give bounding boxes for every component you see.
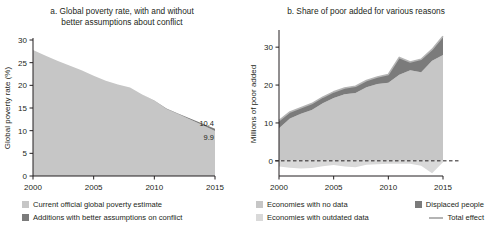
y-axis-tick-label: 10 [18, 127, 27, 136]
legend-label: Displaced people [426, 200, 484, 209]
legend-label: Additions with better assumptions on con… [33, 213, 182, 222]
y-axis-tick-label: 0 [269, 157, 274, 166]
panel-b-title: b. Share of poor added for various reaso… [244, 0, 488, 24]
legend-swatch-icon [22, 201, 29, 208]
x-axis-tick-label: 2010 [145, 183, 163, 192]
panel-b-title-line1: b. Share of poor added for various reaso… [244, 6, 488, 17]
data-label: 9.9 [204, 133, 214, 142]
area-series [279, 161, 443, 174]
legend-item-outdated-data[interactable]: Economies with outdated data [256, 213, 369, 222]
panel-b-svg: 01020302000200520102015Millions of poor … [244, 24, 488, 199]
panel-b-legend: Economies with no data Displaced people … [244, 198, 488, 224]
legend-item-displaced-people[interactable]: Displaced people [415, 200, 488, 209]
y-axis-tick-label: 10 [264, 119, 273, 128]
y-axis-tick-label: 30 [18, 36, 27, 45]
panel-a-title: a. Global poverty rate, with and without… [0, 0, 244, 24]
legend-swatch-icon [22, 214, 29, 221]
legend-swatch-icon [415, 201, 422, 208]
x-axis-tick-label: 2000 [24, 183, 42, 192]
y-axis-title: Global poverty rate (%) [3, 67, 12, 150]
panel-a-svg: 0510152025302000200520102015Global pover… [0, 24, 244, 199]
legend-line-icon [429, 217, 443, 219]
y-axis-tick-label: 30 [264, 43, 273, 52]
legend-row: Economies with outdated data Total effec… [244, 211, 488, 224]
x-axis-tick-label: 2015 [434, 183, 452, 192]
panel-a-legend: Current official global poverty estimate… [0, 198, 244, 224]
legend-label: Economies with no data [267, 200, 348, 209]
legend-row: Additions with better assumptions on con… [0, 211, 244, 224]
legend-label: Current official global poverty estimate [33, 200, 162, 209]
y-axis-tick-label: 15 [18, 104, 27, 113]
y-axis-tick-label: 20 [18, 81, 27, 90]
legend-item-no-data[interactable]: Economies with no data [256, 200, 348, 209]
x-axis-tick-label: 2000 [270, 183, 288, 192]
legend-item-total-effect[interactable]: Total effect [429, 213, 488, 222]
x-axis-tick-label: 2005 [325, 183, 343, 192]
area-series [33, 50, 215, 176]
legend-row: Economies with no data Displaced people [244, 198, 488, 211]
panel-a: a. Global poverty rate, with and without… [0, 0, 244, 239]
panel-a-plot: 0510152025302000200520102015Global pover… [0, 24, 244, 199]
legend-label: Total effect [447, 213, 484, 222]
x-axis-tick-label: 2015 [206, 183, 224, 192]
legend-swatch-icon [256, 201, 263, 208]
legend-item-conflict-additions[interactable]: Additions with better assumptions on con… [22, 213, 182, 222]
x-axis-tick-label: 2005 [85, 183, 103, 192]
legend-row: Current official global poverty estimate [0, 198, 244, 211]
figure-container: a. Global poverty rate, with and without… [0, 0, 488, 239]
panel-b-plot: 01020302000200520102015Millions of poor … [244, 24, 488, 199]
panel-b: b. Share of poor added for various reaso… [244, 0, 488, 239]
y-axis-tick-label: 25 [18, 59, 27, 68]
y-axis-tick-label: 0 [23, 172, 28, 181]
legend-label: Economies with outdated data [267, 213, 369, 222]
x-axis-tick-label: 2010 [379, 183, 397, 192]
y-axis-tick-label: 5 [23, 149, 28, 158]
y-axis-tick-label: 20 [264, 81, 273, 90]
legend-swatch-icon [256, 214, 263, 221]
y-axis-title: Millions of poor added [249, 65, 258, 143]
panel-a-title-line1: a. Global poverty rate, with and without [0, 6, 244, 17]
legend-item-current-estimate[interactable]: Current official global poverty estimate [22, 200, 162, 209]
data-label: 10.4 [199, 119, 214, 128]
